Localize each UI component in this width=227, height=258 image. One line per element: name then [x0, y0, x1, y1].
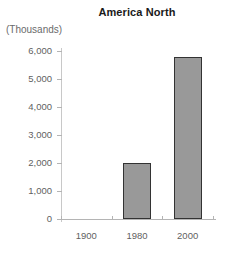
x-axis-tick — [61, 216, 62, 220]
y-axis-tick-label: 3,000 — [4, 129, 52, 140]
y-axis-tick — [57, 191, 62, 192]
y-axis-tick — [57, 79, 62, 80]
y-axis-tick — [57, 163, 62, 164]
x-axis-tick — [162, 216, 163, 220]
y-axis-tick-label: 4,000 — [4, 101, 52, 112]
y-axis-tick-label: 5,000 — [4, 73, 52, 84]
x-axis-tick — [112, 216, 113, 220]
x-axis-tick — [213, 216, 214, 220]
y-axis-tick — [57, 107, 62, 108]
y-axis-tick — [57, 135, 62, 136]
y-axis-tick — [57, 51, 62, 52]
y-axis-tick-label: 2,000 — [4, 157, 52, 168]
y-axis-tick-label: 1,000 — [4, 185, 52, 196]
y-axis-unit-label: (Thousands) — [6, 24, 62, 35]
chart-title: America North — [61, 6, 213, 18]
bar — [123, 163, 151, 219]
bar — [174, 57, 202, 219]
y-axis-tick-label: 6,000 — [4, 45, 52, 56]
bar-chart: America North (Thousands) 01,0002,0003,0… — [0, 0, 227, 258]
x-axis-line — [57, 219, 216, 220]
y-axis-tick-label: 0 — [4, 213, 52, 224]
x-axis-tick-label: 2000 — [163, 230, 213, 241]
x-axis-tick-label: 1900 — [61, 230, 111, 241]
x-axis-tick-label: 1980 — [112, 230, 162, 241]
